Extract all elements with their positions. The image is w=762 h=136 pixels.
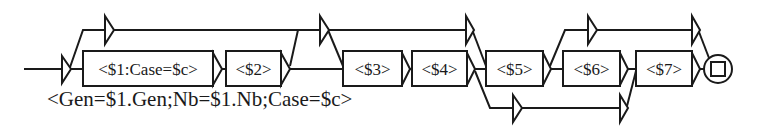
edge	[290, 30, 298, 66]
edge	[473, 32, 486, 66]
initial-state-icon[interactable]	[62, 56, 71, 83]
box-5[interactable]: <$5>	[486, 51, 551, 86]
box-label: <$4>	[421, 60, 457, 79]
edge	[328, 30, 343, 66]
output-label: <Gen=$1.Gen;Nb=$1.Nb;Case=$c>	[47, 87, 352, 111]
box-label: <$6>	[573, 60, 609, 79]
epsilon-node-icon[interactable]	[105, 16, 114, 44]
final-state-square-icon	[711, 62, 725, 76]
box-4[interactable]: <$4>	[412, 51, 475, 86]
epsilon-node-icon[interactable]	[513, 95, 522, 122]
box-label: <$7>	[646, 60, 682, 79]
box-label: <$5>	[496, 60, 532, 79]
box-arrow-icon	[543, 53, 551, 85]
edge	[699, 32, 709, 58]
box-arrow-icon	[620, 53, 628, 85]
box-arrow-icon	[692, 53, 700, 85]
box-1[interactable]: <$1:Case=$c>	[83, 51, 222, 86]
box-arrow-icon	[281, 53, 290, 85]
box-label: <$2>	[235, 60, 271, 79]
fst-graph: <$1:Case=$c> <$2> <$3> <$4> <$5> <$6> <$…	[0, 0, 762, 136]
box-label: <$1:Case=$c>	[98, 60, 198, 79]
epsilon-node-icon[interactable]	[320, 16, 329, 44]
box-arrow-icon	[402, 53, 410, 85]
epsilon-node-icon[interactable]	[466, 16, 474, 44]
box-6[interactable]: <$6>	[563, 51, 628, 86]
box-label: <$3>	[354, 60, 390, 79]
edge	[627, 71, 636, 106]
box-arrow-icon	[467, 53, 475, 85]
box-2[interactable]: <$2>	[226, 51, 290, 86]
box-3[interactable]: <$3>	[343, 51, 410, 86]
final-state[interactable]	[704, 55, 732, 83]
epsilon-node-icon[interactable]	[692, 16, 700, 44]
box-7[interactable]: <$7>	[636, 51, 700, 86]
epsilon-node-icon[interactable]	[588, 16, 597, 44]
epsilon-node-icon[interactable]	[620, 95, 628, 122]
box-arrow-icon	[213, 53, 222, 85]
